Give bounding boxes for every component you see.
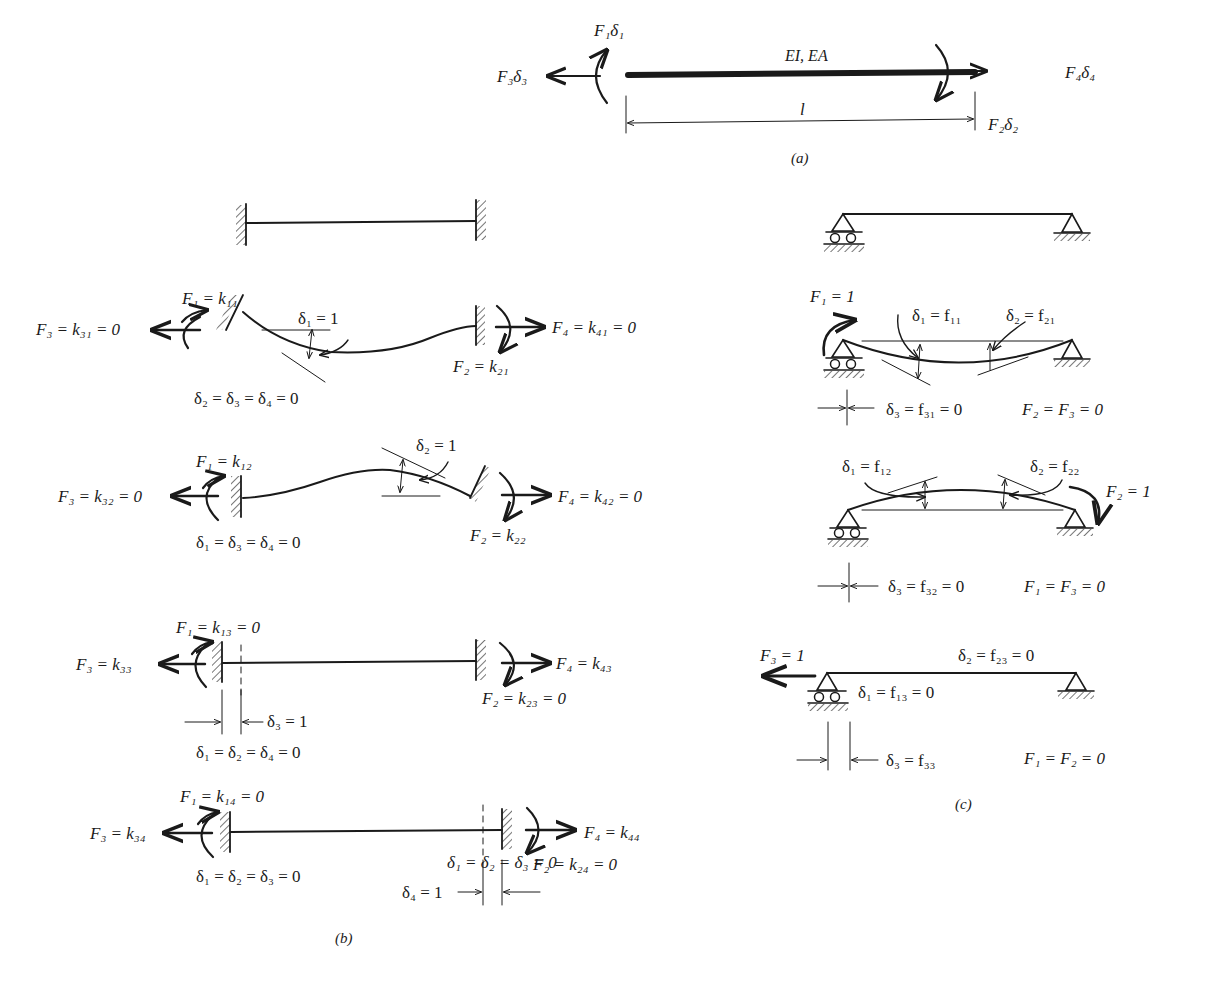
b1-condition: δ₂ = δ₃ = δ₄ = 0 bbox=[194, 390, 299, 407]
b2-f2-label: F₂ = k₂₂ bbox=[470, 527, 526, 544]
caption-b: (b) bbox=[335, 930, 353, 947]
b4-f3-label: F₃ = k₃₄ bbox=[90, 825, 146, 842]
b2-f1-label: F₁ = k₁₂ bbox=[196, 453, 252, 470]
b3-f4-label: F₄ = k₄₃ bbox=[556, 655, 612, 672]
c1-d3-label: δ₃ = f₃₁ = 0 bbox=[886, 401, 962, 418]
b3-f2-label: F₂ = k₂₃ = 0 bbox=[482, 690, 566, 707]
b4-condition-text: δ₁ = δ₂ = δ₃ = 0 bbox=[196, 868, 301, 885]
b3-f1-label: F₁ = k₁₃ = 0 bbox=[176, 619, 260, 636]
panel-a-beam-element bbox=[548, 45, 986, 133]
c1-d2-label: δ₂ = f₂₁ bbox=[1006, 307, 1056, 324]
b2-delta-label: δ₂ = 1 bbox=[416, 437, 457, 454]
c3-d1-label: δ₁ = f₁₃ = 0 bbox=[858, 684, 934, 701]
b2-condition: δ₁ = δ₃ = δ₄ = 0 bbox=[196, 534, 301, 551]
b4-delta-label: δ₄ = 1 bbox=[402, 884, 443, 901]
b1-f3-label: F₃ = k₃₁ = 0 bbox=[36, 321, 120, 338]
b1-f2-label: F₂ = k₂₁ bbox=[453, 358, 509, 375]
c3-condition: F₁ = F₂ = 0 bbox=[1024, 750, 1105, 767]
caption-a: (a) bbox=[791, 150, 809, 167]
c2-d2-label: δ₂ = f₂₂ bbox=[1030, 458, 1080, 475]
label-f2-d2: F₂δ₂ bbox=[988, 116, 1018, 133]
c3-force-label: F₃ = 1 bbox=[760, 647, 805, 664]
label-f4-d4: F₄δ₄ bbox=[1065, 64, 1095, 81]
c3-d2-label: δ₂ = f₂₃ = 0 bbox=[958, 647, 1034, 664]
label-beam-properties: EI, EA bbox=[785, 48, 828, 64]
c2-force-label: F₂ = 1 bbox=[1106, 483, 1151, 500]
c3-d3-label: δ₃ = f₃₃ bbox=[886, 752, 936, 769]
panel-b-fixed-beam bbox=[236, 200, 486, 245]
label-length: l bbox=[800, 101, 805, 118]
panel-c-simple-beam bbox=[824, 214, 1090, 252]
c2-d3-label: δ₃ = f₃₂ = 0 bbox=[888, 578, 964, 595]
label-f3-d3: F₃δ₃ bbox=[497, 68, 527, 85]
c1-condition: F₂ = F₃ = 0 bbox=[1022, 401, 1103, 418]
panel-b-case-3 bbox=[160, 640, 550, 734]
b1-delta-label: δ₁ = 1 bbox=[298, 310, 339, 327]
b4-f1-label: F₁ = k₁₄ = 0 bbox=[180, 788, 264, 805]
caption-c: (c) bbox=[955, 796, 972, 813]
b4-f4-label: F₄ = k₄₄ bbox=[584, 824, 640, 841]
b3-delta-label: δ₃ = 1 bbox=[267, 713, 308, 730]
b4-f2-label: F₂ = k₂₄ = 0 bbox=[533, 856, 617, 873]
b2-f4-label: F₄ = k₄₂ = 0 bbox=[558, 488, 642, 505]
label-f1-d1: F₁δ₁ bbox=[594, 22, 624, 39]
c1-d1-label: δ₁ = f₁₁ bbox=[912, 307, 962, 324]
c2-condition: F₁ = F₃ = 0 bbox=[1024, 578, 1105, 595]
c2-d1-label: δ₁ = f₁₂ bbox=[842, 458, 892, 475]
b2-f3-label: F₃ = k₃₂ = 0 bbox=[58, 488, 142, 505]
b1-f4-label: F₄ = k₄₁ = 0 bbox=[552, 319, 636, 336]
c1-force-label: F₁ = 1 bbox=[810, 288, 855, 305]
b3-condition: δ₁ = δ₂ = δ₄ = 0 bbox=[196, 744, 301, 761]
b1-f1-label: F₁ = k₁₁ bbox=[182, 290, 238, 307]
b3-f3-label: F₃ = k₃₃ bbox=[76, 656, 132, 673]
